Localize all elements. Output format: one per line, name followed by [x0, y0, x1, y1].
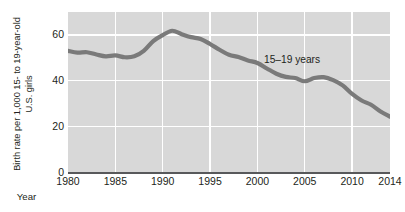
- x-tick-label: 2014: [368, 175, 405, 187]
- x-axis-title: Year: [0, 191, 405, 202]
- x-axis-tick-labels: 19801985199019952000200520102014: [0, 175, 405, 189]
- series-15-19-years-path: [68, 31, 390, 117]
- birth-rate-line-chart: Birth rate per 1,000 15- to 19-year-old …: [0, 0, 405, 212]
- x-tick-label: 1990: [141, 175, 185, 187]
- x-tick-label: 2000: [235, 175, 279, 187]
- series-annotation-label: 15–19 years: [264, 54, 320, 65]
- y-axis-title-line-1: Birth rate per 1,000 15- to 19-year-old: [11, 8, 23, 180]
- y-tick-label: 20: [38, 121, 64, 132]
- y-axis-title-line-2: U.S. girls: [23, 8, 35, 180]
- y-tick-label: 60: [38, 29, 64, 40]
- x-tick-label: 1980: [46, 175, 90, 187]
- x-tick-label: 2005: [283, 175, 327, 187]
- x-axis-title-text: Year: [17, 191, 36, 202]
- y-tick-label: 40: [38, 75, 64, 86]
- x-axis-baseline: [68, 172, 390, 174]
- data-line-series: [68, 12, 390, 172]
- plot-area: [68, 12, 390, 172]
- x-tick-label: 1985: [93, 175, 137, 187]
- x-tick-label: 1995: [188, 175, 232, 187]
